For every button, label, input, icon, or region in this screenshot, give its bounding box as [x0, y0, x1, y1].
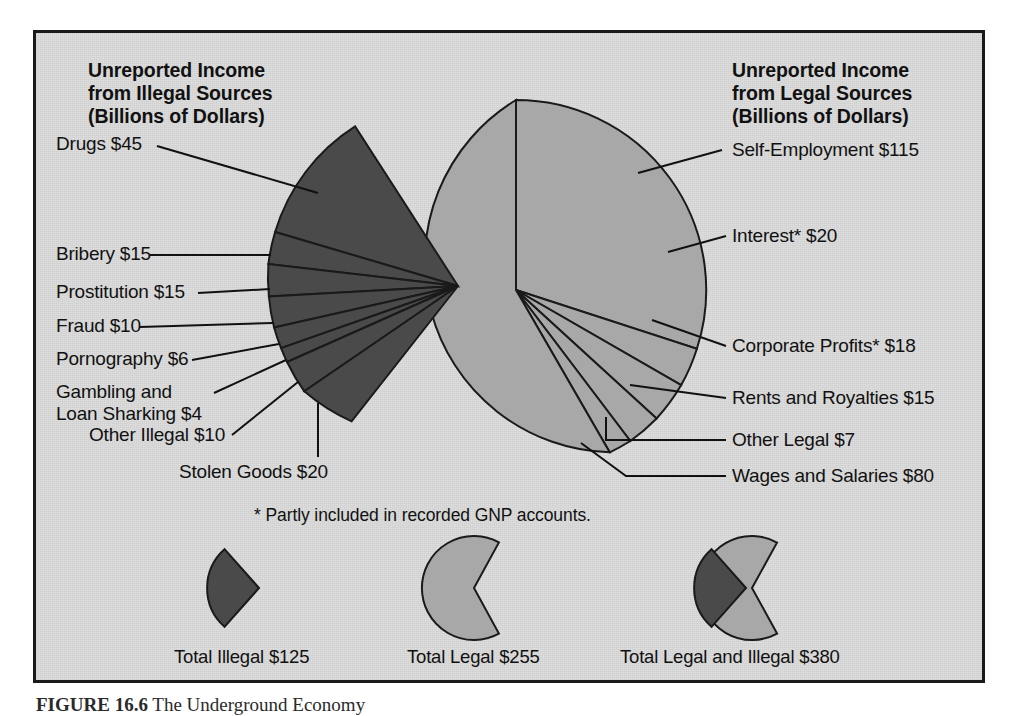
label-gambling-line2: Loan Sharking $4 — [56, 403, 202, 425]
label-other-illegal: Other Illegal $10 — [89, 424, 225, 446]
summary-pie-legal[interactable] — [422, 536, 499, 640]
label-stolen-goods: Stolen Goods $20 — [179, 461, 328, 483]
legal-pie-group — [425, 100, 707, 452]
summary-label-legal: Total Legal $255 — [407, 646, 540, 668]
leader-pornography — [192, 344, 279, 360]
label-other-legal: Other Legal $7 — [732, 429, 855, 451]
label-pornography: Pornography $6 — [56, 348, 188, 370]
label-rents-royalties: Rents and Royalties $15 — [732, 387, 934, 409]
summary-illegal-wedge — [207, 549, 259, 627]
illegal-pie-group — [268, 126, 458, 421]
figure-caption-number: FIGURE 16.6 — [36, 694, 148, 715]
label-corporate-profits: Corporate Profits* $18 — [732, 335, 916, 357]
summary-pie-illegal[interactable] — [207, 549, 259, 627]
summary-label-combined: Total Legal and Illegal $380 — [620, 646, 840, 668]
summary-label-illegal: Total Illegal $125 — [174, 646, 309, 668]
summary-pie-combined[interactable] — [694, 536, 777, 640]
label-fraud: Fraud $10 — [56, 315, 141, 337]
leader-other-illegal — [232, 382, 298, 435]
label-prostitution: Prostitution $15 — [56, 281, 185, 303]
leader-fraud — [140, 323, 273, 327]
label-gambling: Gambling and Loan Sharking $4 — [56, 381, 202, 425]
footnote-text: * Partly included in recorded GNP accoun… — [254, 505, 591, 526]
label-drugs: Drugs $45 — [56, 133, 142, 155]
summary-legal-wedge — [422, 536, 499, 640]
label-self-employment: Self-Employment $115 — [732, 139, 919, 161]
figure-panel: Unreported Income from Illegal Sources (… — [33, 30, 985, 683]
leader-gambling — [214, 360, 286, 393]
figure-caption: FIGURE 16.6 The Underground Economy — [36, 694, 365, 716]
label-interest: Interest* $20 — [732, 225, 837, 247]
label-bribery: Bribery $15 — [56, 243, 151, 265]
label-wages-salaries: Wages and Salaries $80 — [732, 465, 934, 487]
figure-caption-title: The Underground Economy — [152, 694, 365, 715]
leader-drugs — [157, 146, 318, 193]
label-gambling-line1: Gambling and — [56, 381, 202, 403]
leader-prostitution — [198, 289, 270, 293]
